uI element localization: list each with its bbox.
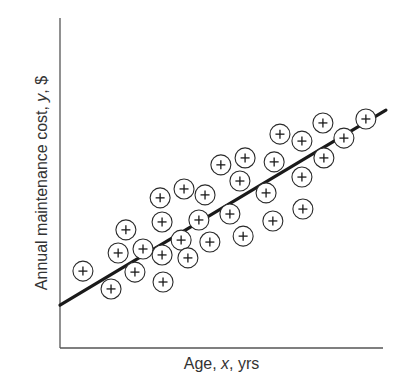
data-point bbox=[313, 113, 333, 133]
data-point bbox=[133, 239, 153, 259]
data-point bbox=[174, 179, 194, 199]
data-point bbox=[334, 128, 354, 148]
data-point bbox=[178, 248, 198, 268]
data-point bbox=[195, 185, 215, 205]
data-point bbox=[211, 155, 231, 175]
data-point bbox=[264, 152, 284, 172]
scatter-chart bbox=[0, 0, 407, 390]
y-axis-label: Annual maintenance cost, y, $ bbox=[33, 18, 51, 348]
data-point bbox=[356, 109, 376, 129]
data-point bbox=[270, 124, 290, 144]
data-point bbox=[125, 262, 145, 282]
data-point bbox=[101, 279, 121, 299]
data-point bbox=[150, 188, 170, 208]
data-point bbox=[293, 199, 313, 219]
data-point bbox=[263, 211, 283, 231]
data-point bbox=[292, 167, 312, 187]
data-point bbox=[220, 204, 240, 224]
data-point bbox=[108, 243, 128, 263]
x-axis-label: Age, x, yrs bbox=[60, 355, 383, 373]
data-point bbox=[314, 148, 334, 168]
data-point bbox=[233, 226, 253, 246]
data-point bbox=[73, 261, 93, 281]
data-point bbox=[171, 230, 191, 250]
data-point bbox=[153, 272, 173, 292]
data-point bbox=[189, 210, 209, 230]
data-point bbox=[292, 131, 312, 151]
data-point bbox=[116, 220, 136, 240]
data-point bbox=[235, 148, 255, 168]
data-point bbox=[230, 171, 250, 191]
data-point bbox=[152, 245, 172, 265]
data-point bbox=[200, 232, 220, 252]
data-point bbox=[152, 212, 172, 232]
data-point bbox=[256, 183, 276, 203]
